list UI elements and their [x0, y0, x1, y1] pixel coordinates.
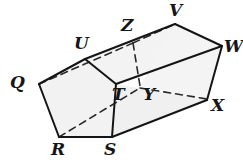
vertex-label-Y: Y	[143, 86, 155, 103]
vertex-label-V: V	[169, 2, 182, 19]
vertex-label-S: S	[104, 141, 116, 158]
vertex-label-R: R	[51, 141, 65, 158]
vertex-label-Z: Z	[121, 17, 133, 34]
vertex-label-Q: Q	[10, 74, 25, 91]
geometry-figure: Q R S T U V W X Y Z	[0, 0, 243, 166]
vertex-label-T: T	[112, 86, 125, 103]
vertex-label-W: W	[224, 38, 243, 55]
vertex-label-U: U	[74, 35, 89, 52]
vertex-label-X: X	[211, 97, 224, 114]
